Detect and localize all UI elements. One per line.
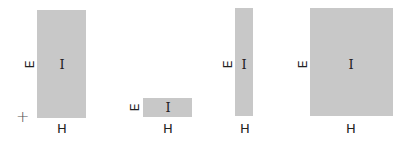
rectangle-2-side-label: E: [128, 102, 141, 114]
rectangle-3-center-label: I: [238, 58, 250, 71]
crosshair-icon: +: [16, 109, 29, 125]
rectangle-2-bottom-label: H: [161, 122, 175, 135]
rectangle-4-bottom-label: H: [344, 122, 358, 135]
rectangle-4-side-label: E: [296, 59, 309, 71]
rectangle-1-side-label: E: [23, 59, 36, 71]
rectangle-2-center-label: I: [162, 101, 174, 114]
rectangle-3-bottom-label: H: [238, 122, 252, 135]
rectangle-1-center-label: I: [56, 58, 68, 71]
rectangle-1-bottom-label: H: [55, 122, 69, 135]
rectangle-3-side-label: E: [221, 59, 234, 71]
rectangle-4-center-label: I: [345, 58, 357, 71]
